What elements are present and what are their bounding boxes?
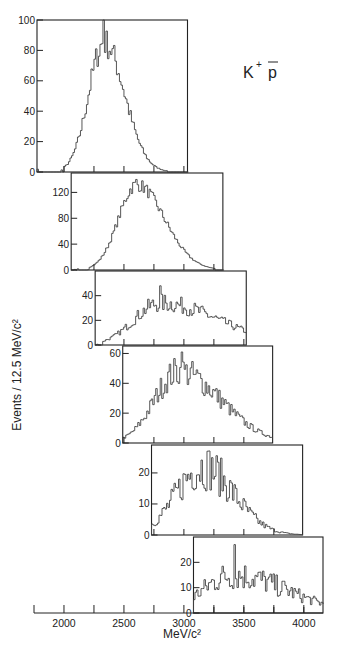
x-axis-tick-label: 3500	[232, 617, 256, 629]
y-tick-label: 0	[115, 438, 121, 449]
panel-5: 01020	[138, 445, 303, 541]
panel-6: 01020	[180, 537, 324, 619]
y-tick-label: 80	[24, 45, 36, 56]
y-tick-label: 0	[144, 530, 150, 541]
y-tick-label: 60	[24, 75, 36, 86]
y-tick-label: 20	[138, 467, 150, 478]
panel-2: 04080120	[52, 173, 224, 276]
y-tick-label: 20	[110, 408, 122, 419]
y-tick-label: 60	[110, 348, 122, 359]
y-tick-label: 20	[180, 557, 192, 568]
y-tick-label: 120	[52, 187, 69, 198]
annotation-charge: +	[256, 59, 262, 70]
y-tick-label: 20	[24, 136, 36, 147]
y-tick-label: 80	[58, 213, 70, 224]
y-tick-label: 40	[24, 106, 36, 117]
y-tick-label: 0	[29, 167, 35, 178]
histogram-line	[95, 286, 246, 345]
panel-frame	[37, 20, 187, 172]
x-axis-tick-label: 4000	[292, 617, 316, 629]
x-axis-tick-label: 2000	[52, 617, 76, 629]
histogram-line	[123, 352, 273, 443]
y-axis-title: Events / 12.5 MeV/c²	[10, 319, 24, 430]
annotation-particle-2: p	[268, 64, 277, 81]
x-axis-title: MeV/c²	[163, 627, 201, 641]
y-tick-label: 10	[138, 498, 150, 509]
y-tick-label: 0	[64, 265, 70, 276]
y-tick-label: 0	[88, 340, 94, 351]
panels-group: 0204060801000408012002040020406001020010…	[18, 15, 324, 619]
x-axis: 20002500300035004000	[34, 605, 323, 629]
y-tick-label: 40	[58, 239, 70, 250]
panel-4: 0204060	[110, 346, 273, 449]
histogram-line	[37, 20, 188, 172]
x-axis-tick-label: 2500	[112, 617, 136, 629]
stacked-histogram-chart: 0204060801000408012002040020406001020010…	[0, 0, 337, 650]
y-tick-label: 10	[180, 582, 192, 593]
histogram-line	[152, 451, 303, 535]
histogram-line	[193, 545, 323, 613]
y-tick-label: 40	[82, 290, 94, 301]
histogram-line	[71, 179, 224, 270]
reaction-annotation: K + p	[243, 59, 278, 81]
y-tick-label: 20	[82, 315, 94, 326]
panel-3: 02040	[82, 271, 247, 351]
panel-frame	[71, 173, 223, 270]
annotation-particle-1: K	[243, 64, 254, 81]
y-tick-label: 100	[18, 15, 35, 26]
y-tick-label: 40	[110, 378, 122, 389]
panel-1: 020406080100	[18, 15, 188, 178]
